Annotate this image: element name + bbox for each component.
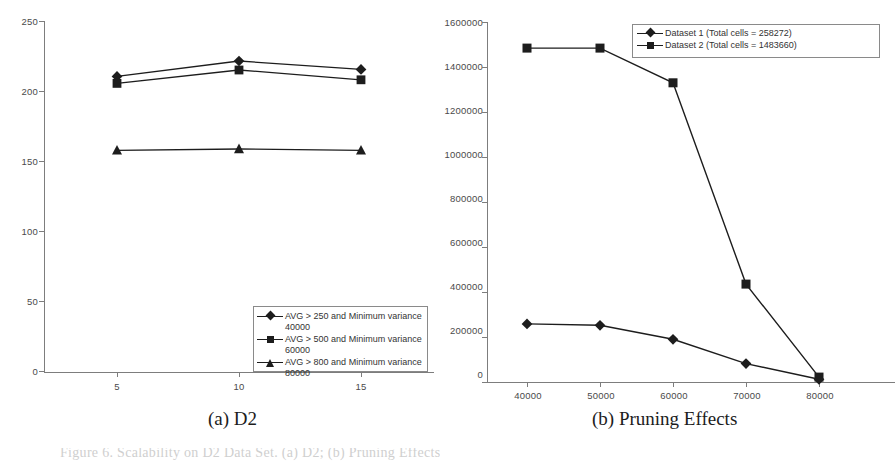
legend-label: Dataset 2 (Total cells = 1483660)	[665, 40, 797, 51]
legend-item: Dataset 1 (Total cells = 258272)	[637, 28, 875, 39]
triangle-marker-icon	[257, 357, 283, 368]
legend-label-line2: 80000	[285, 368, 422, 379]
series-line-dataset2	[527, 48, 819, 377]
diamond-marker-icon	[257, 311, 283, 322]
figure-footnote: Figure 6. Scalability on D2 Data Set. (a…	[60, 448, 440, 461]
legend-label-line1: AVG > 500 and Minimum variance	[285, 334, 422, 344]
legend-item: AVG > 250 and Minimum variance 40000	[257, 311, 424, 332]
chart-panel-d2: 250 200 150 100 50 0 5 10 15	[0, 0, 440, 400]
chart-b-legend: Dataset 1 (Total cells = 258272) Dataset…	[632, 24, 880, 58]
chart-panel-pruning-effects: 1600000 1400000 1200000 1000000 800000 6…	[440, 0, 895, 400]
figure-footnote-clip: Figure 6. Scalability on D2 Data Set. (a…	[0, 448, 895, 464]
chart-a-legend: AVG > 250 and Minimum variance 40000 AVG…	[253, 306, 428, 372]
chart-b-series-layer	[440, 0, 895, 400]
legend-label-line2: 40000	[285, 322, 422, 333]
legend-label: Dataset 1 (Total cells = 258272)	[665, 28, 792, 39]
legend-item: AVG > 800 and Minimum variance 80000	[257, 357, 424, 378]
legend-item: Dataset 2 (Total cells = 1483660)	[637, 40, 875, 51]
square-marker-icon	[257, 334, 283, 345]
figure-container: 250 200 150 100 50 0 5 10 15	[0, 0, 895, 464]
series-markers-dataset2	[523, 44, 824, 382]
square-marker-icon	[637, 40, 663, 51]
series-markers-dataset1	[522, 319, 825, 385]
subfigure-caption-b: (b) Pruning Effects	[592, 408, 737, 430]
legend-item: AVG > 500 and Minimum variance 60000	[257, 334, 424, 355]
legend-label-line2: 60000	[285, 345, 422, 356]
diamond-marker-icon	[637, 28, 663, 39]
subfigure-caption-a: (a) D2	[208, 408, 257, 430]
legend-label-line1: AVG > 250 and Minimum variance	[285, 311, 422, 321]
series-markers-avg800	[112, 144, 366, 155]
legend-label-line1: AVG > 800 and Minimum variance	[285, 357, 422, 367]
series-line-dataset1	[527, 324, 819, 379]
